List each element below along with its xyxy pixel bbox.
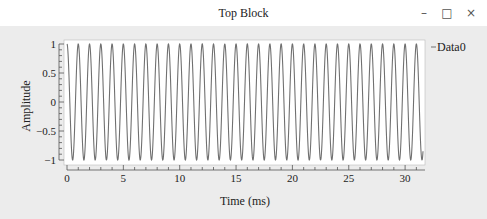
y-axis-label: Amplitude	[19, 80, 33, 131]
close-button[interactable]: ×	[461, 4, 481, 22]
x-axis-label: Time (ms)	[220, 194, 270, 208]
y-tick-label: 0.5	[42, 67, 56, 79]
x-tick-label: 0	[64, 172, 70, 184]
minimize-button[interactable]: –	[414, 4, 434, 22]
x-tick-label: 10	[174, 172, 186, 184]
plot-canvas: 10.50−0.5−1 051015202530 Amplitude Time …	[0, 26, 487, 219]
y-tick-label: 0	[51, 96, 57, 108]
y-tick-label: 1	[51, 38, 57, 50]
x-axis: 051015202530	[64, 165, 425, 184]
maximize-button[interactable]: □	[437, 4, 457, 22]
title-bar: Top Block – □ ×	[0, 0, 487, 26]
line-chart: 10.50−0.5−1 051015202530 Amplitude Time …	[0, 26, 487, 219]
x-tick-label: 20	[287, 172, 299, 184]
y-tick-label: −0.5	[36, 125, 56, 137]
x-tick-label: 5	[121, 172, 127, 184]
legend-label-data0: Data0	[437, 40, 466, 54]
legend: Data0	[431, 40, 466, 54]
y-tick-label: −1	[44, 154, 56, 166]
y-axis: 10.50−0.5−1	[36, 38, 64, 166]
x-tick-label: 15	[231, 172, 243, 184]
x-tick-label: 30	[400, 172, 412, 184]
x-tick-label: 25	[343, 172, 355, 184]
